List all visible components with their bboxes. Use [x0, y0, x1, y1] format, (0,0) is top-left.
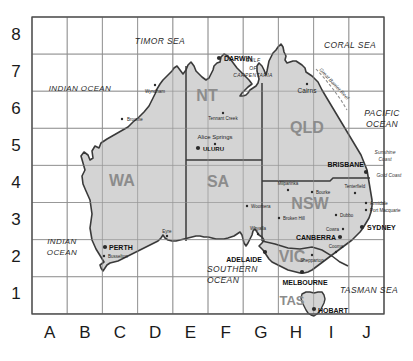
capital-label-adelaide: ADELAIDE: [226, 256, 262, 263]
town-dot-cowra: [342, 228, 344, 230]
town-label-broken-hill: Broken Hill: [283, 216, 305, 221]
grid-column-label-g: G: [246, 323, 276, 343]
ocean-label-southern-ocean: SOUTHERN: [207, 264, 258, 274]
town-dot-busselton: [103, 255, 105, 257]
town-label-armidale: Armidale: [370, 201, 388, 206]
town-dot-eyre: [166, 235, 168, 237]
town-dot-shepparton: [311, 254, 313, 256]
capital-label-sydney: SYDNEY: [367, 224, 396, 231]
town-dot-cooma: [335, 251, 337, 253]
grid-row-label-4: 4: [3, 173, 29, 193]
grid-row-label-8: 8: [3, 25, 29, 45]
grid-column-label-a: A: [35, 323, 65, 343]
town-dot-broome: [121, 118, 123, 120]
town-label-eyre: Eyre: [162, 229, 172, 234]
ocean-label-pacific-ocean: OCEAN: [366, 119, 399, 129]
capital-dot-hobart: [312, 307, 316, 311]
ocean-label-indian-ocean-sw-: INDIAN: [47, 237, 77, 246]
town-dot-wyndham: [154, 84, 156, 86]
state-label-tas: TAS: [279, 293, 304, 308]
grid-column-label-j: J: [351, 323, 381, 343]
ocean-label-gulf-of-carpentaria: OF: [249, 65, 257, 71]
capital-dot-perth: [103, 245, 107, 249]
feature-label-sunshine-coast: Sunshine: [375, 149, 396, 155]
town-label-milparinka: Milparinka: [278, 181, 299, 186]
feature-label-gold-coast: Gold Coast: [376, 172, 402, 178]
town-label-woomera: Woomera: [251, 204, 271, 209]
town-label-cowra: Cowra: [326, 227, 340, 232]
town-dot-cairns: [306, 83, 308, 85]
capital-dot-brisbane: [364, 170, 368, 174]
capital-label-perth: PERTH: [109, 244, 133, 251]
capital-label-darwin: DARWIN: [224, 55, 253, 62]
map-canvas: WANTSAQLDNSWVICTAS INDIAN OCEANINDIANOCE…: [0, 0, 413, 361]
ocean-label-tasman-sea: TASMAN SEA: [340, 285, 398, 295]
capital-label-canberra: CANBERRA: [296, 234, 336, 241]
town-dot-dubbo: [335, 214, 337, 216]
town-dot-tenterfield: [354, 192, 356, 194]
grid-row-label-2: 2: [3, 247, 29, 267]
town-label-alice-springs: Alice Springs: [197, 134, 232, 140]
ocean-label-timor-sea: TIMOR SEA: [135, 36, 185, 46]
town-dot-bourke: [311, 191, 313, 193]
state-label-nsw: NSW: [291, 195, 329, 212]
town-label-wyndham: Wyndham: [145, 89, 165, 94]
state-label-wa: WA: [109, 172, 135, 189]
australia-grid-map: WANTSAQLDNSWVICTAS INDIAN OCEANINDIANOCE…: [0, 0, 413, 361]
town-label-shepparton: Shepparton: [300, 258, 324, 263]
town-label-cairns: Cairns: [298, 87, 318, 94]
state-label-sa: SA: [207, 173, 230, 190]
town-dot-alice-springs: [214, 143, 216, 145]
grid-column-label-c: C: [105, 323, 135, 343]
state-label-nt: NT: [196, 87, 218, 104]
grid-row-label-7: 7: [3, 62, 29, 82]
grid-row-label-3: 3: [3, 210, 29, 230]
capital-label-hobart: HOBART: [318, 307, 349, 314]
town-dot-port-macquarie: [365, 209, 367, 211]
town-dot-armidale: [365, 202, 367, 204]
grid-row-label-1: 1: [3, 284, 29, 304]
town-label-dubbo: Dubbo: [340, 213, 354, 218]
ocean-label-southern-ocean: OCEAN: [207, 275, 240, 285]
state-label-qld: QLD: [290, 119, 324, 136]
capital-dot-melbourne: [300, 270, 304, 274]
capital-dot-uluru: [196, 146, 200, 150]
grid-column-label-i: I: [316, 323, 346, 343]
town-dot-whyalla: [257, 233, 259, 235]
town-dot-tennant-creek: [222, 112, 224, 114]
ocean-label-indian-ocean: INDIAN OCEAN: [49, 84, 112, 93]
grid-column-label-h: H: [281, 323, 311, 343]
ocean-label-coral-sea: CORAL SEA: [324, 40, 376, 50]
ocean-label-indian-ocean-sw-: OCEAN: [47, 248, 77, 257]
grid-row-label-5: 5: [3, 136, 29, 156]
grid-column-label-d: D: [140, 323, 170, 343]
grid-column-label-f: F: [211, 323, 241, 343]
capital-dot-canberra: [338, 235, 342, 239]
town-dot-broken-hill: [278, 217, 280, 219]
feature-label-sunshine-coast: Coast: [378, 156, 392, 162]
town-label-bourke: Bourke: [316, 190, 331, 195]
grid-column-label-e: E: [175, 323, 205, 343]
town-dot-milparinka: [287, 189, 289, 191]
grid-column-label-b: B: [70, 323, 100, 343]
grid-row-label-6: 6: [3, 99, 29, 119]
capital-dot-adelaide: [263, 250, 267, 254]
town-label-tenterfield: Tenterfield: [345, 184, 366, 189]
town-label-broome: Broome: [127, 117, 143, 122]
capital-label-melbourne: MELBOURNE: [282, 279, 327, 286]
ocean-label-gulf-of-carpentaria: CARPENTARIA: [233, 72, 273, 78]
town-label-busselton: Busselton: [108, 254, 128, 259]
town-label-tennant-creek: Tennant Creek: [208, 116, 238, 121]
ocean-label-pacific-ocean: PACIFIC: [364, 108, 400, 118]
town-label-port-macquarie: Port Macquarie: [370, 208, 401, 213]
town-label-whyalla: Whyalla: [250, 226, 267, 231]
town-dot-woomera: [246, 205, 248, 207]
town-label-cooma: Cooma: [329, 244, 344, 249]
capital-label-uluru: ULURU: [203, 146, 224, 152]
capital-dot-sydney: [360, 225, 364, 229]
capital-label-brisbane: BRISBANE: [327, 161, 364, 168]
capital-dot-darwin: [217, 56, 221, 60]
